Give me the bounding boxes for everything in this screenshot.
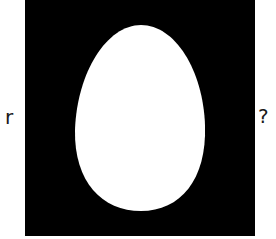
left-letter-label: r	[5, 107, 13, 127]
egg-icon	[25, 0, 255, 236]
egg-image-panel	[25, 0, 255, 236]
question-mark-label: ?	[258, 106, 269, 126]
